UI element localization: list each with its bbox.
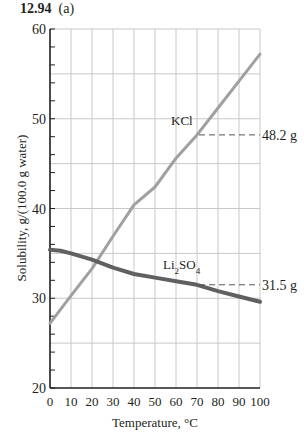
solubility-chart: 20304050600102030405060708090100 48.2 gK… — [0, 0, 304, 439]
series-label: KCl — [171, 113, 193, 128]
y-tick-label: 40 — [32, 202, 46, 217]
y-axis-label: Solubility, g/(100.0 g water) — [14, 135, 29, 282]
x-tick-label: 10 — [65, 394, 78, 409]
x-tick-label: 60 — [170, 394, 183, 409]
x-tick-label: 100 — [250, 394, 270, 409]
grid-lines — [50, 29, 260, 388]
y-tick-label: 50 — [32, 112, 46, 127]
x-axis-label: Temperature, °C — [112, 415, 198, 430]
x-tick-label: 50 — [149, 394, 162, 409]
x-tick-label: 70 — [191, 394, 204, 409]
annotations: 48.2 gKCl31.5 gLi2SO4 — [163, 113, 297, 293]
x-tick-label: 30 — [107, 394, 120, 409]
x-tick-label: 90 — [233, 394, 246, 409]
annotation-value: 31.5 g — [262, 278, 297, 293]
x-tick-label: 0 — [47, 394, 54, 409]
axes: 20304050600102030405060708090100 — [32, 22, 270, 409]
x-tick-label: 80 — [212, 394, 225, 409]
y-tick-label: 20 — [32, 381, 46, 396]
x-tick-label: 40 — [128, 394, 141, 409]
x-tick-label: 20 — [86, 394, 99, 409]
y-tick-label: 30 — [32, 291, 46, 306]
series-label: Li2SO4 — [163, 257, 201, 276]
y-tick-label: 60 — [32, 22, 46, 37]
annotation-value: 48.2 g — [262, 128, 297, 143]
